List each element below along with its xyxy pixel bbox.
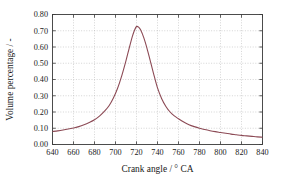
x-tick-label: 640: [46, 148, 58, 157]
y-tick-label: 0.00: [34, 140, 48, 149]
x-tick-label: 820: [235, 148, 247, 157]
y-tick-label: 0.50: [34, 59, 48, 68]
y-tick-label: 0.30: [34, 92, 48, 101]
x-tick-label: 760: [172, 148, 184, 157]
y-axis-title: Volume percentage / -: [5, 38, 15, 120]
x-axis-title: Crank angle / ° CA: [122, 164, 194, 174]
x-tick-label: 800: [214, 148, 226, 157]
y-tick-label: 0.20: [34, 108, 48, 117]
y-tick-label: 0.40: [34, 75, 48, 84]
x-tick-label: 660: [67, 148, 79, 157]
x-tick-label: 720: [130, 148, 142, 157]
y-tick-label: 0.10: [34, 124, 48, 133]
chart-plot: 640660680700720740760780800820840 0.000.…: [0, 0, 307, 181]
chart-figure: 640660680700720740760780800820840 0.000.…: [0, 0, 307, 181]
y-tick-label: 0.60: [34, 43, 48, 52]
x-tick-label: 740: [151, 148, 163, 157]
x-tick-label: 680: [88, 148, 100, 157]
x-tick-label: 700: [109, 148, 121, 157]
y-tick-label: 0.70: [34, 27, 48, 36]
x-tick-label: 780: [193, 148, 205, 157]
y-tick-labels: 0.000.100.200.300.400.500.600.700.80: [34, 10, 48, 149]
x-tick-label: 840: [256, 148, 268, 157]
y-tick-label: 0.80: [34, 10, 48, 19]
